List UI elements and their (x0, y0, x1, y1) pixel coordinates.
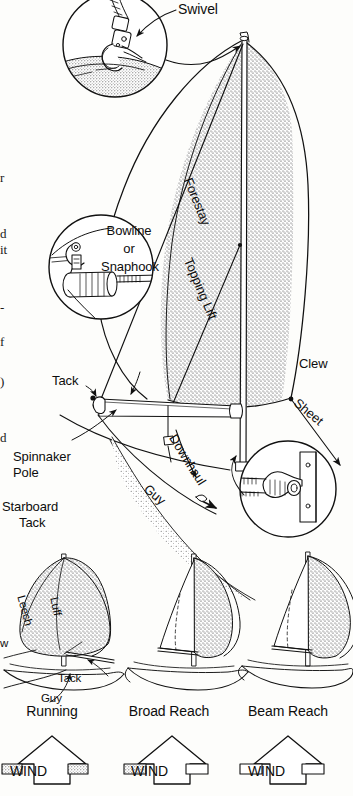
caption-beam-reach: Beam Reach (228, 704, 348, 720)
page-edge-fragment-3: it (0, 242, 7, 258)
label-tack: Tack (52, 374, 78, 389)
caption-running: Running (2, 704, 102, 720)
label-bowline: Bowline (82, 224, 176, 239)
label-snaphook: Snaphook (78, 260, 182, 275)
page-edge-fragment-6: ) (0, 374, 4, 390)
page-edge-fragment-2: d (0, 226, 7, 242)
figure-canvas: Swivel Bowline or Snaphook Forestay Topp… (0, 0, 353, 796)
page-edge-fragment-1: r (0, 170, 4, 186)
wind-label-broad-reach: WIND (131, 764, 168, 780)
page-edge-fragment-5: f (0, 334, 4, 350)
label-spinnaker-pole-line2: Pole (13, 466, 39, 481)
label-bowline-or: or (82, 242, 176, 257)
label-starboard-tack: Starboard (2, 500, 58, 515)
wind-label-running: WIND (10, 764, 47, 780)
label-starboard-tack-line2: Tack (19, 516, 45, 531)
label-spinnaker-pole: Spinnaker (13, 450, 71, 465)
page-edge-fragment-7: d (0, 430, 7, 446)
label-boat-tack: Tack (58, 672, 81, 685)
label-boat-clew-cut: w (0, 637, 8, 650)
label-clew: Clew (299, 357, 328, 372)
wind-label-beam-reach: WIND (248, 764, 285, 780)
caption-broad-reach: Broad Reach (108, 704, 230, 720)
page-edge-fragment-4: - (0, 300, 4, 316)
label-swivel: Swivel (178, 2, 218, 18)
